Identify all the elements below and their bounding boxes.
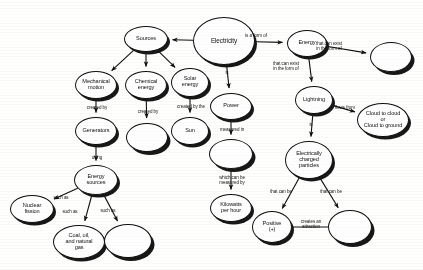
edge-label-e-elec-energy: is a form of (245, 33, 267, 38)
concept-map-canvas: ElectricitySourcesEnergyMechanical motio… (0, 0, 423, 270)
edge-label-e-gen-energysrc: using (92, 155, 103, 160)
edge-label-e-chem-blank: created by (138, 109, 159, 114)
edge-label-e-charged-pos: that can be (270, 189, 292, 194)
concept-node-electricity[interactable]: Electricity (193, 17, 255, 65)
concept-node-power-blank[interactable] (209, 139, 253, 169)
concept-node-sources[interactable]: Sources (124, 26, 168, 52)
concept-edge-e-src-mech (112, 50, 134, 71)
edge-label-e-charged-neg: that can be (320, 189, 342, 194)
concept-node-nuclear[interactable]: Nuclear fission (10, 195, 54, 223)
concept-node-label: Mechanical motion (79, 79, 112, 91)
concept-node-power[interactable]: Power (210, 93, 252, 120)
concept-node-label: Electrically charged particles (293, 151, 325, 169)
concept-edge-e-elec-sources (172, 40, 193, 41)
concept-edge-e-esrc-coal (85, 195, 92, 221)
concept-node-lightning[interactable]: Lightning (295, 86, 333, 114)
concept-node-label: Coal, oil, and natural gas (63, 233, 96, 251)
edge-label-e-mech-gen: created by (87, 105, 108, 110)
concept-node-energy-src[interactable]: Energy sources (74, 165, 118, 195)
concept-node-label: Positive (+) (260, 221, 285, 233)
concept-node-solar[interactable]: Solar energy (171, 68, 209, 97)
concept-node-label: Power (220, 103, 241, 109)
concept-node-charged[interactable]: Electrically charged particles (285, 141, 333, 179)
concept-node-energy-blank[interactable] (370, 42, 412, 72)
concept-node-chemical[interactable]: Chemical energy (125, 71, 167, 99)
edge-label-e-light-cloud: flows from (335, 105, 355, 110)
edge-label-e-elec-power: is (225, 70, 228, 75)
edge-label-e-solar-sun: created by the (177, 104, 205, 109)
concept-node-cloud[interactable]: Cloud to cloud or Cloud to ground (357, 103, 409, 137)
concept-node-label: Kilowatts per hour (217, 202, 244, 214)
concept-node-label: Solar energy (179, 76, 202, 88)
concept-node-mechanical[interactable]: Mechanical motion (75, 71, 117, 99)
concept-node-label: Energy sources (84, 174, 109, 186)
concept-node-sun[interactable]: Sun (171, 117, 209, 145)
edge-label-e-esrc-coal: such as (62, 209, 77, 214)
concept-node-kilowatts[interactable]: Kilowatts per hour (210, 194, 252, 222)
concept-edge-e-elec-energy (255, 42, 283, 43)
concept-node-label: Sun (182, 128, 198, 134)
concept-node-label: Cloud to cloud or Cloud to ground (361, 111, 405, 129)
edge-label-e-blank-kw: which can be measured by (219, 175, 245, 185)
edge-label-e-esrc-blank: such as (100, 208, 115, 213)
edge-label-e-energy-light: that can exist in the form of (273, 61, 299, 71)
edge-label-e-light-charged: is (309, 122, 312, 127)
concept-node-generators[interactable]: Generators (75, 117, 117, 145)
concept-node-positive[interactable]: Positive (+) (252, 211, 292, 243)
concept-node-label: Sources (133, 36, 159, 42)
concept-node-label: Lightning (300, 97, 328, 103)
concept-edge-e-elec-power (227, 65, 229, 88)
concept-node-label: Nuclear fission (20, 203, 45, 215)
edge-label-e-esrc-nuclear: such as (53, 195, 68, 200)
concept-edge-e-src-solar (157, 50, 175, 67)
concept-node-label: Chemical energy (132, 79, 161, 91)
edge-label-e-power-blank: measured in (220, 127, 244, 132)
concept-node-coal[interactable]: Coal, oil, and natural gas (53, 225, 105, 259)
concept-edge-e-energy-light (309, 56, 312, 81)
edge-label-e-energy-blank: that can exist in the form of (316, 41, 342, 51)
concept-node-chem-blank[interactable] (126, 123, 168, 152)
concept-node-src-blank[interactable] (104, 224, 152, 258)
concept-node-label: Electricity (208, 38, 240, 45)
concept-node-label: Generators (80, 128, 113, 134)
edge-label-e-pos-neg: creates an attraction (301, 219, 322, 229)
concept-node-neg-blank[interactable] (328, 210, 372, 244)
